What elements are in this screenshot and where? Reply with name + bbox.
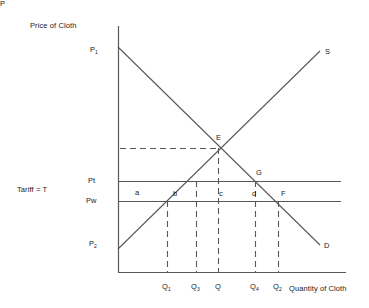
supply-curve-label: S [325,48,330,56]
price-tick-p2: P2 [89,240,97,248]
demand-curve [118,47,320,245]
quantity-tick-q-base: Q [215,282,221,291]
quantity-tick-q2: Q2 [273,283,282,291]
price-tick-p2-sub: 2 [94,243,97,249]
price-tick-p1: P1 [90,46,98,54]
price-tick-p1-sub: 1 [95,49,98,55]
diagram-canvas [0,0,369,308]
quantity-tick-q3: Q3 [191,283,200,291]
price-tick-pt-base: Pt [88,176,95,185]
price-tick-pw: Pw [86,197,97,205]
price-tick-pw-base: Pw [86,196,97,205]
price-tick-p-base: P [0,0,5,8]
tariff-annotation: Tariff = T [17,186,47,194]
quantity-tick-q4-sub: 4 [256,286,259,292]
quantity-tick-q2-sub: 2 [279,286,282,292]
x-axis-title: Quantity of Cloth [289,285,347,293]
quantity-tick-q3-sub: 3 [197,286,200,292]
demand-curve-label: D [324,242,330,250]
tariff-diagram-figure: Price of Cloth Quantity of Cloth Tariff … [0,0,369,308]
quantity-tick-q: Q [215,283,221,291]
quantity-tick-q4: Q4 [250,283,259,291]
point-label-f: F [281,190,286,198]
area-label-b: b [173,190,177,198]
price-tick-p: P [0,0,5,8]
point-label-e: E [216,134,221,142]
y-axis-title: Price of Cloth [30,22,76,30]
point-label-g: G [256,169,262,177]
area-label-a: a [135,189,139,197]
quantity-tick-q1-sub: 1 [168,286,171,292]
area-label-c: c [219,190,223,198]
area-label-d: d [252,190,256,198]
price-tick-pt: Pt [88,177,95,185]
quantity-tick-q1: Q1 [162,283,171,291]
